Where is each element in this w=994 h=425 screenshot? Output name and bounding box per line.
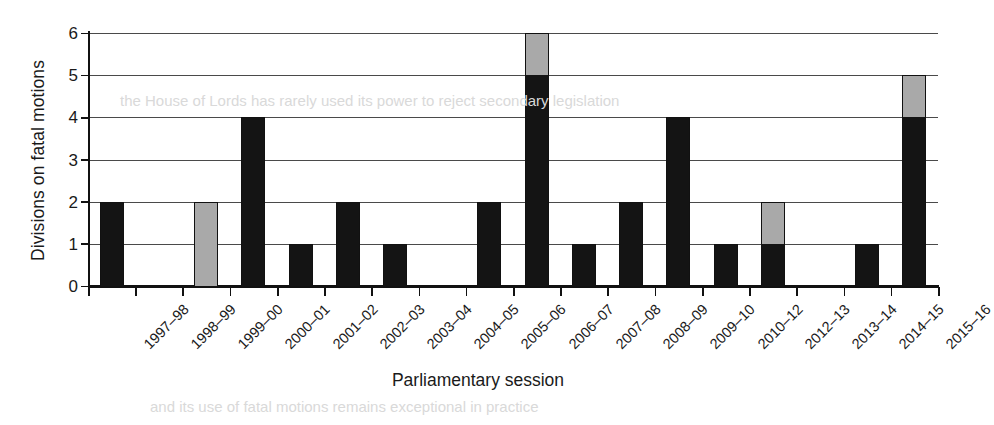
x-tick-mark-15 — [796, 287, 798, 296]
y-tick-mark-6 — [81, 33, 90, 35]
bar-segment-dark — [666, 117, 690, 286]
x-tick-mark-2 — [182, 287, 184, 296]
bar-1999-00 — [194, 202, 218, 286]
x-tick-label-10: 2007–08 — [612, 301, 663, 352]
bar-segment-dark — [572, 244, 596, 286]
bar-2012-13 — [761, 202, 785, 286]
x-tick-label-12: 2009–10 — [707, 301, 758, 352]
x-tick-mark-11 — [607, 287, 609, 296]
bar-segment-dark — [383, 244, 407, 286]
x-tick-label-4: 2001–02 — [329, 301, 380, 352]
x-tick-mark-8 — [466, 287, 468, 296]
bar-2006-07 — [525, 33, 549, 286]
x-tick-label-11: 2008–09 — [660, 301, 711, 352]
x-tick-mark-17 — [891, 287, 893, 296]
y-tick-label-2: 2 — [52, 194, 78, 211]
bar-2001-02 — [289, 244, 313, 286]
x-tick-mark-0 — [88, 287, 90, 296]
bar-segment-dark — [761, 244, 785, 286]
x-tick-label-2: 1999–00 — [235, 301, 286, 352]
bar-2009-10 — [666, 117, 690, 286]
x-tick-mark-end — [938, 287, 940, 296]
x-tick-label-16: 2014–15 — [896, 301, 947, 352]
x-tick-mark-3 — [230, 287, 232, 296]
gridline-3 — [88, 160, 938, 161]
x-tick-mark-5 — [324, 287, 326, 296]
x-axis-title: Parliamentary session — [0, 370, 956, 391]
bar-segment-dark — [619, 202, 643, 286]
x-tick-label-5: 2002–03 — [376, 301, 427, 352]
x-tick-label-8: 2005–06 — [518, 301, 569, 352]
gridline-6 — [88, 33, 938, 34]
bar-segment-dark — [241, 117, 265, 286]
bar-2002-03 — [336, 202, 360, 286]
x-tick-label-17: 2015–16 — [943, 301, 994, 352]
y-tick-mark-4 — [81, 117, 90, 119]
y-tick-mark-1 — [81, 243, 90, 245]
bar-2005-06 — [477, 202, 501, 286]
y-tick-label-3: 3 — [52, 152, 78, 169]
x-tick-mark-1 — [135, 287, 137, 296]
x-tick-label-14: 2012–13 — [801, 301, 852, 352]
bar-2010-12 — [714, 244, 738, 286]
y-tick-mark-3 — [81, 159, 90, 161]
x-tick-mark-12 — [655, 287, 657, 296]
x-tick-mark-16 — [844, 287, 846, 296]
page-bleed-text-1: and its use of fatal motions remains exc… — [150, 398, 539, 415]
y-tick-label-4: 4 — [52, 109, 78, 126]
bar-segment-dark — [902, 117, 926, 286]
x-tick-mark-10 — [560, 287, 562, 296]
x-tick-label-1: 1998–99 — [187, 301, 238, 352]
bar-segment-dark — [477, 202, 501, 286]
x-tick-label-0: 1997–98 — [140, 301, 191, 352]
y-tick-mark-5 — [81, 75, 90, 77]
bar-2007-08 — [572, 244, 596, 286]
bar-2014-15 — [855, 244, 879, 286]
bar-2008-09 — [619, 202, 643, 286]
y-tick-label-5: 5 — [52, 67, 78, 84]
x-tick-mark-14 — [749, 287, 751, 296]
bar-segment-dark — [855, 244, 879, 286]
y-tick-label-1: 1 — [52, 236, 78, 253]
plot-area — [88, 33, 938, 286]
x-tick-label-6: 2003–04 — [423, 301, 474, 352]
x-tick-mark-7 — [419, 287, 421, 296]
y-tick-label-6: 6 — [52, 25, 78, 42]
x-tick-label-13: 2010–12 — [754, 301, 805, 352]
bar-segment-light — [902, 75, 926, 117]
gridline-5 — [88, 75, 938, 76]
y-tick-mark-2 — [81, 201, 90, 203]
x-tick-mark-6 — [371, 287, 373, 296]
y-axis-title: Divisions on fatal motions — [28, 11, 49, 311]
x-tick-mark-13 — [702, 287, 704, 296]
bar-segment-dark — [289, 244, 313, 286]
bar-segment-dark — [525, 75, 549, 286]
bar-2003-04 — [383, 244, 407, 286]
bar-segment-light — [525, 33, 549, 75]
x-tick-mark-4 — [277, 287, 279, 296]
x-tick-mark-9 — [513, 287, 515, 296]
x-tick-label-9: 2006–07 — [565, 301, 616, 352]
y-tick-label-0: 0 — [52, 278, 78, 295]
bar-segment-light — [761, 202, 785, 244]
bar-2000-01 — [241, 117, 265, 286]
bar-2015-16 — [902, 75, 926, 286]
x-tick-label-15: 2013–14 — [848, 301, 899, 352]
bar-segment-dark — [100, 202, 124, 286]
bar-segment-dark — [336, 202, 360, 286]
x-tick-label-7: 2004–05 — [471, 301, 522, 352]
x-tick-label-3: 2000–01 — [282, 301, 333, 352]
bar-segment-light — [194, 202, 218, 286]
gridline-4 — [88, 117, 938, 118]
bar-segment-dark — [714, 244, 738, 286]
bar-1997-98 — [100, 202, 124, 286]
